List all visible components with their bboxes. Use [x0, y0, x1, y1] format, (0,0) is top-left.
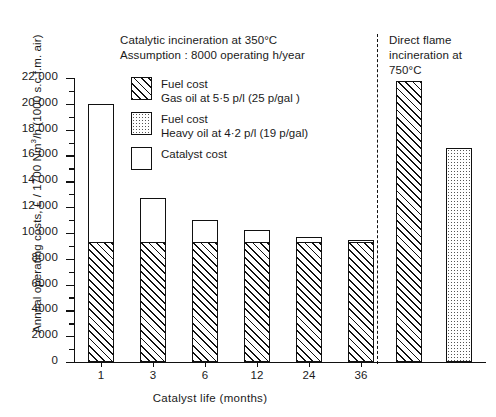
y-tick-label: 10 000 [0, 225, 58, 237]
y-tick-major [66, 130, 74, 131]
x-tick [205, 362, 206, 367]
panel-divider [377, 34, 378, 364]
y-tick-label: 4000 [0, 302, 58, 314]
x-tick-label-6: 6 [185, 369, 225, 381]
y-tick-label: 14 000 [0, 173, 58, 185]
bar-group [140, 78, 166, 362]
segment-fuel-cost-gas-oil [349, 242, 373, 361]
right-title-line2: incineration at 750°C [389, 48, 496, 78]
right-panel-title: Direct flame incineration at 750°C [389, 33, 496, 78]
bar-group [244, 78, 270, 362]
y-tick-major [66, 310, 74, 311]
y-tick-major [66, 78, 74, 79]
y-tick-label: 2000 [0, 328, 58, 340]
bar-24-months [296, 237, 322, 362]
segment-catalyst-cost [141, 199, 165, 242]
segment-catalyst-cost [193, 221, 217, 242]
chart-figure: Annual operating costs, £ / 1700 Nm3/h (… [0, 0, 496, 417]
segment-fuel-cost-gas-oil [141, 242, 165, 361]
segment-fuel-cost-gas-oil [89, 242, 113, 361]
segment-catalyst-cost [245, 231, 269, 242]
x-tick [101, 362, 102, 367]
x-tick [153, 362, 154, 367]
y-tick-label: 0 [0, 354, 58, 366]
x-tick-label-24: 24 [289, 369, 329, 381]
bar-direct-flame-gas-oil [396, 81, 422, 362]
x-tick-label-12: 12 [237, 369, 277, 381]
x-tick [257, 362, 258, 367]
segment-catalyst-cost [89, 105, 113, 242]
segment-fuel-cost-gas-oil [297, 242, 321, 361]
y-tick-label: 16 000 [0, 147, 58, 159]
y-tick-major [66, 155, 74, 156]
bar-1-months [88, 104, 114, 362]
bar-group [192, 78, 218, 362]
y-tick-label: 22 000 [0, 70, 58, 82]
left-title-line1: Catalytic incineration at 350°C [120, 33, 305, 48]
x-axis-line [74, 362, 486, 363]
x-tick-label-1: 1 [81, 369, 121, 381]
y-tick-major [66, 362, 74, 363]
x-axis-label: Catalyst life (months) [60, 392, 360, 404]
y-tick-major [66, 207, 74, 208]
y-tick-major [66, 336, 74, 337]
bar-12-months [244, 230, 270, 362]
bar-6-months [192, 220, 218, 362]
segment-fuel-cost-gas-oil [245, 242, 269, 361]
left-panel-title: Catalytic incineration at 350°C Assumpti… [120, 33, 305, 63]
y-tick-label: 20 000 [0, 96, 58, 108]
x-tick-label-36: 36 [341, 369, 381, 381]
y-tick-major [66, 181, 74, 182]
bar-36-months [348, 240, 374, 362]
y-tick-major [66, 285, 74, 286]
x-tick [361, 362, 362, 367]
y-tick-label: 18 000 [0, 122, 58, 134]
y-tick-major [66, 233, 74, 234]
y-tick-major [66, 104, 74, 105]
left-title-line2: Assumption : 8000 operating h/year [120, 48, 305, 63]
bar-direct-flame-heavy-oil [446, 148, 472, 362]
bar-group [296, 78, 322, 362]
segment-fuel-cost-gas-oil [193, 242, 217, 361]
x-tick [309, 362, 310, 367]
y-tick-label: 12 000 [0, 199, 58, 211]
y-tick-major [66, 259, 74, 260]
bar-3-months [140, 198, 166, 362]
plot-area [74, 78, 486, 362]
x-tick-label-3: 3 [133, 369, 173, 381]
bar-group [348, 78, 374, 362]
bar-group [88, 78, 114, 362]
right-title-line1: Direct flame [389, 33, 496, 48]
y-tick-label: 8000 [0, 251, 58, 263]
y-tick-label: 6000 [0, 277, 58, 289]
